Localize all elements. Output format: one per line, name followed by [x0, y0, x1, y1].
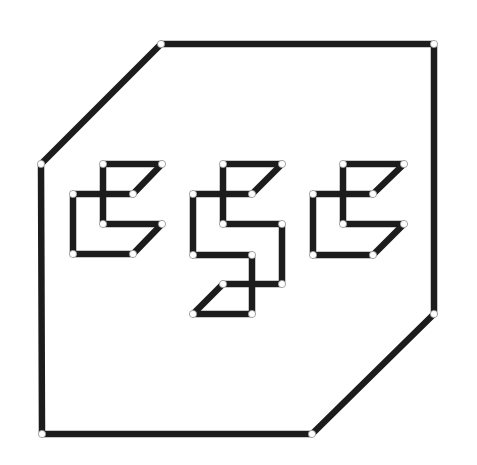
left-glyph-edge: [133, 224, 162, 254]
middle-glyph-node: [189, 251, 196, 258]
left-glyph-node: [99, 220, 106, 227]
right-glyph-node: [309, 190, 316, 197]
right-glyph-node: [339, 220, 346, 227]
middle-glyph-node: [278, 220, 285, 227]
left-glyph-node: [158, 160, 165, 167]
left-glyph: [69, 160, 165, 257]
diagram-canvas: [0, 0, 477, 465]
middle-glyph-edges: [193, 164, 282, 314]
outer-edge: [312, 314, 434, 434]
middle-glyph-edge: [193, 284, 223, 314]
right-glyph: [309, 160, 407, 258]
right-glyph-node: [339, 160, 346, 167]
outer-node: [308, 430, 315, 437]
right-glyph-edges: [313, 164, 404, 255]
outer-node: [430, 310, 437, 317]
outer-edges: [41, 44, 434, 434]
middle-glyph-node: [189, 190, 196, 197]
outer-edge: [41, 164, 42, 434]
outer-node: [37, 160, 44, 167]
left-glyph-node: [158, 220, 165, 227]
left-glyph-node: [69, 250, 76, 257]
right-glyph-node: [369, 251, 376, 258]
left-glyph-edges: [73, 164, 162, 254]
outer-nodes: [37, 40, 437, 437]
left-glyph-edge: [133, 164, 162, 194]
right-glyph-node: [369, 190, 376, 197]
middle-glyph-node: [219, 220, 226, 227]
middle-glyph-node: [219, 280, 226, 287]
right-glyph-node: [309, 251, 316, 258]
middle-glyph-node: [278, 160, 285, 167]
outer-edge: [41, 44, 161, 164]
middle-glyph-node: [248, 251, 255, 258]
left-glyph-node: [99, 160, 106, 167]
middle-glyph-nodes: [189, 160, 285, 317]
middle-glyph-node: [248, 190, 255, 197]
outer-node: [38, 430, 45, 437]
middle-glyph-node: [278, 280, 285, 287]
middle-glyph-edge: [252, 164, 282, 194]
right-glyph-node: [400, 160, 407, 167]
right-glyph-edge: [373, 164, 404, 194]
middle-glyph-node: [219, 160, 226, 167]
outer-node: [157, 40, 164, 47]
outer-node: [430, 40, 437, 47]
left-glyph-node: [69, 190, 76, 197]
right-glyph-node: [400, 220, 407, 227]
middle-glyph-node: [189, 310, 196, 317]
middle-glyph-node: [248, 310, 255, 317]
left-glyph-node: [129, 250, 136, 257]
left-glyph-node: [129, 190, 136, 197]
outer-polygon: [37, 40, 437, 437]
right-glyph-edge: [373, 224, 404, 255]
middle-glyph: [189, 160, 285, 317]
